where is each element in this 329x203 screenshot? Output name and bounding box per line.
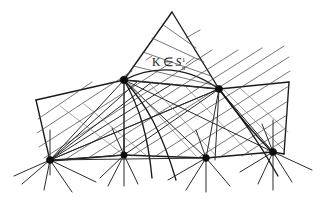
sweeping-curves: [124, 80, 278, 180]
bottom-vertex-1: [46, 156, 53, 163]
upper-arc-group: [124, 70, 219, 89]
leader-tick: [186, 58, 194, 64]
figure-root: K∈S1n: [0, 0, 329, 203]
label-superscript: 1: [182, 56, 186, 63]
quad-edge-right: [284, 82, 289, 154]
hatch-line: [38, 82, 92, 119]
ray-line: [206, 158, 230, 186]
outer-quadrilateral-outline: [36, 80, 289, 161]
label-k-membership: K∈S1n: [152, 56, 186, 71]
ray-line: [14, 160, 50, 176]
triangle-hatch-line: [162, 24, 196, 48]
label-subscript: n: [182, 64, 186, 71]
label-symbol-k: K: [152, 56, 161, 68]
upper-triangle-outline: [124, 12, 219, 89]
upper-arc: [124, 70, 219, 89]
chord-line: [50, 80, 124, 160]
label-symbol-member: ∈: [163, 56, 173, 68]
k-in-script-s-label: K∈S1n: [152, 56, 186, 71]
hatch-line: [44, 50, 212, 158]
bottom-vertex-4: [269, 148, 276, 155]
sweep-curve-right-b: [219, 89, 278, 176]
ray-line: [186, 158, 206, 190]
ray-line: [50, 160, 96, 182]
label-symbol-family: S: [175, 56, 181, 68]
chord-line: [50, 81, 138, 160]
upper-vertex-left: [120, 76, 128, 84]
upper-vertex-right: [215, 85, 222, 92]
hatch-line: [37, 71, 132, 133]
triangle-hatch-line: [133, 66, 217, 86]
quad-edge-upper-right: [219, 82, 289, 89]
figure-canvas: K∈S1n: [0, 0, 329, 203]
triangle-hatch-line: [186, 30, 200, 38]
quad-edge-left: [36, 100, 50, 161]
chord-line: [124, 89, 219, 155]
hatch-line: [176, 86, 289, 157]
bottom-vertex-2: [121, 152, 127, 158]
bottom-vertex-3: [203, 155, 210, 162]
ray-line: [168, 158, 206, 180]
ray-line: [100, 155, 124, 178]
